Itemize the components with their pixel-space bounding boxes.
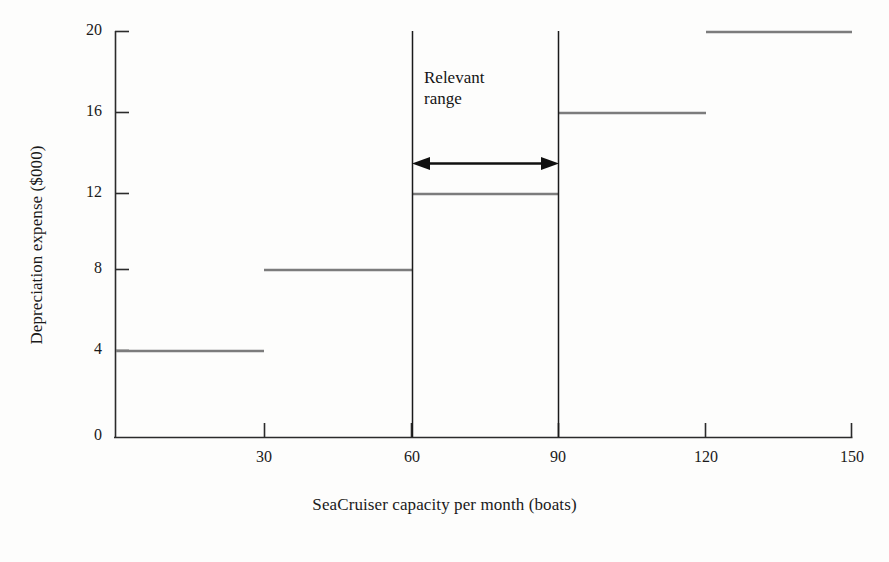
y-tick-label-16: 16 bbox=[62, 102, 102, 120]
relevant-range-annotation: Relevant range bbox=[424, 68, 554, 109]
y-tick-label-8: 8 bbox=[62, 259, 102, 277]
x-axis-title: SeaCruiser capacity per month (boats) bbox=[0, 495, 889, 515]
step-chart-figure: 20 16 12 8 4 0 30 60 90 120 150 Deprecia… bbox=[0, 0, 889, 562]
y-tick-label-20: 20 bbox=[62, 21, 102, 39]
x-tick-label-120: 120 bbox=[676, 448, 736, 466]
relevant-range-arrow bbox=[412, 157, 559, 170]
y-tick-label-12: 12 bbox=[62, 183, 102, 201]
x-tick-label-90: 90 bbox=[528, 448, 588, 466]
x-tick-label-150: 150 bbox=[822, 448, 882, 466]
x-tick-label-60: 60 bbox=[382, 448, 442, 466]
y-axis-ticks bbox=[115, 32, 129, 351]
relevant-range-arrowhead-left bbox=[412, 157, 430, 170]
y-tick-label-0: 0 bbox=[62, 426, 102, 444]
relevant-range-label-line1: Relevant bbox=[424, 68, 554, 89]
x-tick-label-30: 30 bbox=[234, 448, 294, 466]
relevant-range-label-line2: range bbox=[424, 89, 554, 110]
y-tick-label-4: 4 bbox=[62, 340, 102, 358]
y-axis-title: Depreciation expense ($000) bbox=[27, 95, 47, 395]
relevant-range-arrowhead-right bbox=[541, 157, 559, 170]
